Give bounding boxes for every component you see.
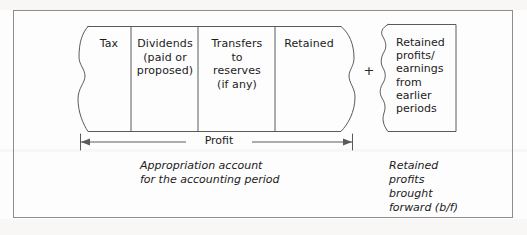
cell-label-retained: Retained xyxy=(276,37,342,51)
cell-label-transfers: Transfers to reserves (if any) xyxy=(199,37,275,91)
brought-forward-caption: Retained profits brought forward (b/f) xyxy=(389,159,489,215)
diagram-canvas: Tax Dividends (paid or proposed) Transfe… xyxy=(0,0,527,235)
cell-label-dividends: Dividends (paid or proposed) xyxy=(132,37,198,78)
cell-label-tax: Tax xyxy=(88,37,130,51)
scan-tint-bottom xyxy=(0,219,527,235)
scan-tint-top xyxy=(0,0,527,10)
appropriation-account-caption: Appropriation account for the accounting… xyxy=(140,159,350,187)
brought-forward-block-label: Retained profits/ earnings from earlier … xyxy=(396,36,458,115)
profit-measure-label: Profit xyxy=(186,134,252,147)
plus-operator: + xyxy=(362,64,376,77)
